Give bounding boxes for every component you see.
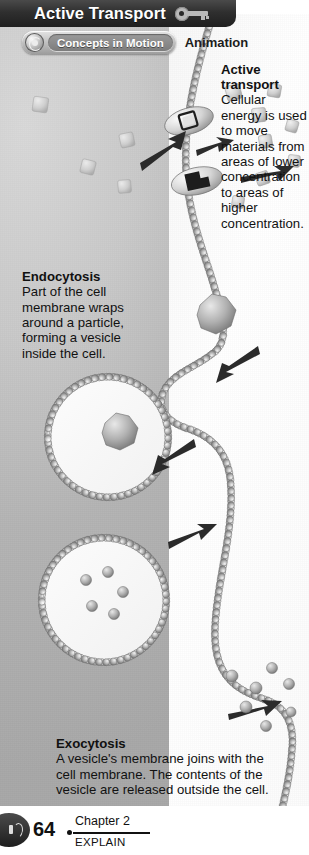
page-number: 64 [33,818,55,841]
callout-exocytosis-body: A vesicle's membrane joins with the cell… [56,751,271,797]
callout-endocytosis-body: Part of the cell membrane wraps around a… [22,284,150,361]
footer-rule [73,832,150,834]
textbook-page: Active Transport Concepts in Motion Anim… [0,0,309,855]
vesicle-exocytosis [38,534,170,666]
audio-speaker-icon[interactable] [0,813,30,847]
transport-protein-lower [169,162,225,199]
vesicle-endocytosis-forming [44,373,172,501]
callout-endocytosis: Endocytosis Part of the cell membrane wr… [22,269,150,361]
concepts-in-motion-label-wrap: Concepts in Motion [48,34,173,51]
page-title: Active Transport [34,4,166,23]
chapter-label: Chapter 2 [75,814,130,828]
page-title-bar: Active Transport [0,0,236,27]
callout-exocytosis: Exocytosis A vesicle's membrane joins wi… [56,736,271,797]
concepts-in-motion-globe-icon [25,33,44,52]
callout-active-transport-heading-line1: Active [221,62,307,77]
key-icon [175,7,209,21]
particles-cytoplasm [32,96,135,193]
callout-active-transport-body: Cellular energy is used to move material… [221,92,307,231]
callout-endocytosis-heading: Endocytosis [22,269,150,284]
concepts-in-motion-pill[interactable]: Concepts in Motion [22,31,176,54]
arrow-exocytosis-1 [168,524,217,549]
concepts-in-motion-bar[interactable]: Concepts in Motion Animation [22,31,248,54]
page-footer: 64 Chapter 2 EXPLAIN [0,806,309,855]
callout-active-transport-heading-line2: transport [221,77,307,92]
footer-bullet [67,830,72,835]
animation-label: Animation [185,35,249,50]
callout-exocytosis-heading: Exocytosis [56,736,271,751]
arrow-endocytosis-1 [216,346,260,383]
transport-protein-upper [161,102,216,141]
section-label: EXPLAIN [75,836,126,848]
particle-entering [197,294,236,334]
callout-active-transport: Active transport Cellular energy is used… [221,62,307,231]
arrow-toward-membrane [140,131,186,171]
arrow-exocytosis-release [228,700,282,720]
concepts-in-motion-label: Concepts in Motion [57,37,164,49]
